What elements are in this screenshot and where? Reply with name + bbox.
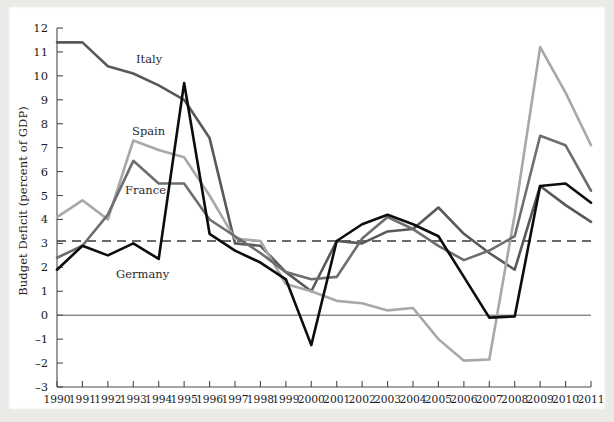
x-tick-label: 2005 [425, 393, 452, 406]
y-tick-label: 4 [41, 212, 48, 226]
y-tick-label: 6 [41, 165, 48, 179]
y-tick-labels: 1211109876543210–1–2–3 [33, 21, 48, 394]
y-tick-label: –1 [35, 332, 48, 346]
x-tick-label: 2009 [527, 393, 554, 406]
x-tick-label: 1996 [196, 393, 223, 406]
x-tick-label: 1997 [221, 393, 248, 406]
axes-layer [57, 28, 591, 387]
y-tick-label: 0 [41, 308, 48, 322]
x-tick-label: 2003 [374, 393, 401, 406]
y-tick-label: 3 [41, 236, 48, 250]
x-tick-label: 1991 [69, 393, 96, 406]
x-tick-label: 2010 [552, 393, 579, 406]
y-tick-label: 2 [41, 260, 48, 274]
y-tick-label: 10 [33, 69, 48, 83]
figure-canvas: Budget Deficit (percent of GDP) 12111098… [0, 0, 614, 422]
series-label-italy: Italy [136, 52, 163, 66]
x-tick-label: 1999 [272, 393, 299, 406]
x-tick-label: 2008 [501, 393, 528, 406]
x-tick-label: 2006 [450, 393, 477, 406]
y-tick-label: 7 [41, 141, 48, 155]
series-layer [57, 42, 591, 360]
line-chart: 1211109876543210–1–2–3 19901991199219931… [8, 6, 606, 410]
x-tick-label: 1995 [171, 393, 198, 406]
y-tick-label: 1 [41, 284, 48, 298]
x-tick-label: 2011 [577, 393, 604, 406]
series-line-italy [57, 42, 591, 291]
series-line-germany [57, 83, 591, 345]
y-tick-label: 11 [33, 45, 48, 59]
x-tick-label: 2007 [476, 393, 503, 406]
series-label-france: France [125, 183, 166, 197]
x-tick-label: 2000 [298, 393, 325, 406]
chart-plate: Budget Deficit (percent of GDP) 12111098… [8, 6, 606, 410]
series-line-france [57, 136, 591, 280]
y-tick-label: 5 [41, 189, 48, 203]
x-tick-label: 2004 [399, 393, 426, 406]
x-tick-label: 1994 [145, 393, 172, 406]
x-tick-label: 1990 [43, 393, 70, 406]
x-tick-label: 1998 [247, 393, 274, 406]
y-tick-label: –3 [35, 380, 48, 394]
x-tick-label: 1992 [94, 393, 121, 406]
x-tick-labels: 1990199119921993199419951996199719981999… [43, 393, 604, 406]
series-label-spain: Spain [132, 124, 166, 138]
y-tick-label: 8 [41, 117, 48, 131]
x-tick-label: 2001 [323, 393, 350, 406]
y-tick-label: 12 [33, 21, 48, 35]
x-tick-label: 2002 [349, 393, 376, 406]
x-tick-label: 1993 [120, 393, 147, 406]
series-line-spain [57, 47, 591, 361]
y-tick-label: 9 [41, 93, 48, 107]
series-label-germany: Germany [116, 267, 170, 281]
y-tick-label: –2 [35, 356, 48, 370]
